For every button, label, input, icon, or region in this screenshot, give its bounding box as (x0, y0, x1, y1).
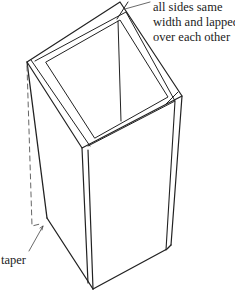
sides-annotation-line-1: all sides same (153, 0, 235, 15)
taper-leader-line (29, 226, 43, 251)
sides-annotation: all sides same width and lapped over eac… (153, 0, 235, 45)
sides-leader-line (125, 2, 150, 9)
taper-annotation: taper (1, 253, 26, 268)
bottom-right-edge (93, 245, 171, 289)
lap-line-back (117, 2, 128, 19)
sides-annotation-line-2: width and lapped (153, 15, 235, 30)
left-edge (27, 62, 47, 218)
right-edge-outer (171, 96, 182, 245)
sides-annotation-line-3: over each other (153, 30, 235, 45)
front-edge-outer (82, 148, 88, 283)
front-edge-inner (88, 150, 93, 289)
lap-line-left (31, 60, 90, 146)
inner-back-edge (118, 21, 121, 121)
right-edge-inner (166, 101, 175, 250)
